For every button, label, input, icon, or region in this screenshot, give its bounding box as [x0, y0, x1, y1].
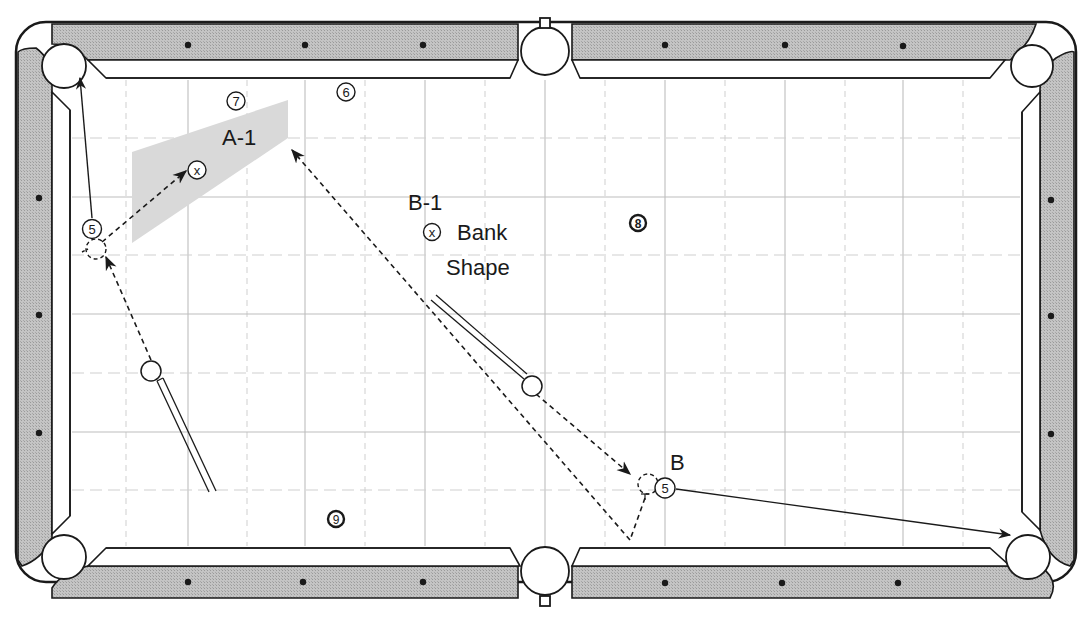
- svg-text:x: x: [429, 225, 436, 240]
- svg-text:8: 8: [635, 217, 642, 231]
- diamond-icon: [1048, 431, 1054, 437]
- ball-7: 7: [227, 92, 245, 110]
- diamond-icon: [300, 579, 306, 585]
- cushion-top-left: [88, 60, 518, 78]
- diamond-icon: [895, 580, 901, 586]
- svg-text:9: 9: [333, 513, 340, 527]
- cue-ball-a: [141, 361, 161, 381]
- diamond-icon: [662, 42, 668, 48]
- diamond-icon: [36, 312, 42, 318]
- pocket-top-right-icon: [1011, 45, 1053, 87]
- pocket-notch-bottom: [540, 596, 550, 606]
- diamond-icon: [1048, 313, 1054, 319]
- ball-5-a: 5: [83, 220, 102, 239]
- svg-text:x: x: [194, 163, 201, 178]
- rail-top-left: [52, 24, 518, 60]
- diamond-icon: [1048, 197, 1054, 203]
- cushion-bottom-left: [88, 548, 520, 566]
- rail-left: [18, 48, 52, 566]
- diamond-icon: [420, 579, 426, 585]
- table-frame: [16, 22, 1076, 582]
- diamond-icon: [782, 42, 788, 48]
- diamond-icon: [900, 43, 906, 49]
- rail-bottom-left: [52, 566, 518, 598]
- ball-9: 9: [328, 511, 344, 527]
- pool-table-diagram: 5 5 7 6 8 9 x x: [0, 0, 1088, 619]
- pocket-bottom-middle-icon: [521, 547, 569, 595]
- rail-top-right: [572, 24, 1036, 60]
- pocket-bottom-left-icon: [42, 535, 86, 579]
- label-b: B: [670, 450, 685, 475]
- cushion-right: [1022, 92, 1040, 530]
- label-bank: Bank: [457, 220, 508, 245]
- rail-right: [1040, 52, 1074, 566]
- svg-text:5: 5: [88, 222, 95, 237]
- rail-bottom-right: [572, 566, 1053, 598]
- pocket-top-left-icon: [42, 44, 86, 88]
- cushion-bottom-right: [572, 548, 1010, 566]
- label-shape: Shape: [446, 255, 510, 280]
- cushion-left: [52, 92, 70, 534]
- label-b1: B-1: [408, 190, 442, 215]
- diamond-icon: [36, 430, 42, 436]
- diamond-icon: [302, 42, 308, 48]
- pocket-top-middle-icon: [521, 27, 569, 75]
- diamond-icon: [779, 580, 785, 586]
- cue-ball-b: [522, 376, 542, 396]
- ball-6: 6: [337, 83, 355, 101]
- label-a1: A-1: [222, 125, 256, 150]
- diamond-icon: [662, 580, 668, 586]
- cushion-top-right: [572, 60, 1005, 78]
- ball-5-b: 5: [655, 478, 675, 498]
- target-b1-icon: x: [424, 224, 441, 241]
- svg-text:5: 5: [661, 481, 668, 496]
- diamond-icon: [185, 42, 191, 48]
- svg-text:6: 6: [342, 85, 349, 100]
- diamond-icon: [36, 195, 42, 201]
- target-a1-icon: x: [188, 161, 206, 179]
- ball-8: 8: [630, 215, 646, 231]
- pocket-bottom-right-icon: [1006, 535, 1050, 579]
- diamond-icon: [420, 42, 426, 48]
- pocket-notch-top: [540, 18, 550, 28]
- diamond-icon: [185, 579, 191, 585]
- svg-text:7: 7: [232, 94, 239, 109]
